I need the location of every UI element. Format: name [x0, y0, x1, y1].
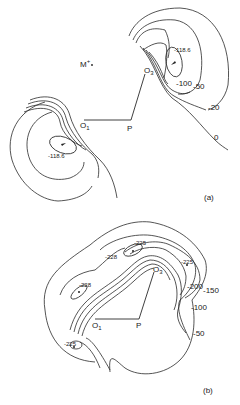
atom-p-label-b: P	[136, 321, 141, 330]
m-plus-dot	[91, 64, 93, 66]
label-min-left-upper-b: -228	[79, 282, 92, 288]
label-minus-100: -100	[176, 79, 193, 88]
contour-0-lower	[30, 97, 117, 198]
label-zero: 0	[214, 133, 219, 142]
contour-minus-20-upper	[129, 8, 229, 110]
contour-minus-100-lower	[24, 108, 82, 146]
contour-channel-5-b	[86, 338, 110, 370]
atom-o3-label-a: O3	[144, 66, 154, 76]
contour-outer-lower	[10, 102, 92, 201]
contour-minus-20-lower	[28, 101, 99, 178]
min-dot-left	[78, 291, 80, 293]
contour-channel-6-b	[80, 342, 100, 368]
panel-a-label: (a)	[204, 193, 214, 202]
minimum-arrow-lower	[61, 143, 66, 146]
atom-o1-label-a: O1	[80, 121, 90, 131]
bond-p-o3	[131, 74, 145, 120]
minimum-arrow-upper	[171, 61, 176, 65]
label-min-lower: -118.6	[48, 153, 65, 159]
contour-diagram: M+ O1 P O3 -118.6 -100 -50 -20 0 -118.6 …	[0, 0, 240, 405]
lower-left-contours	[10, 97, 117, 201]
atom-o3-label-b: O3	[153, 265, 163, 275]
label-min-top-b-b: -228	[105, 254, 118, 260]
label-minus-200-b: -200	[187, 282, 204, 291]
bond-p-o3-b	[139, 272, 154, 319]
min-dot-top	[132, 250, 134, 252]
label-minus-50: -50	[193, 82, 205, 91]
atom-p-label-a: P	[127, 124, 132, 133]
contour-minus-50-b-left	[45, 310, 95, 362]
panel-a: M+ O1 P O3 -118.6 -100 -50 -20 0 -118.6 …	[10, 8, 228, 202]
atom-m-label: M+	[80, 58, 91, 69]
contour-minus-100-upper	[136, 29, 169, 58]
label-min-left-lower-b: -225	[64, 341, 77, 347]
label-minus-150-b: -150	[203, 286, 220, 295]
contour-minus-20-channel	[143, 48, 206, 110]
atom-o1-label-b: O1	[92, 321, 102, 331]
label-minus-100-b: -100	[191, 303, 208, 312]
label-min-right-b: -225	[181, 259, 194, 265]
contour-mid-lower	[27, 112, 84, 179]
panel-b: O1 P O3 -225 -228 -225 -228 -225 -200 -1…	[44, 222, 219, 395]
label-min-top-a-b: -225	[134, 240, 147, 246]
label-minus-50-b: -50	[193, 329, 205, 338]
label-min-upper: -118.6	[174, 47, 191, 53]
contour-minus-50-lower	[26, 105, 86, 150]
label-minus-20: -20	[208, 103, 220, 112]
contour-channel-1-b	[70, 256, 186, 333]
panel-b-label: (b)	[203, 386, 213, 395]
contour-minus-100-channel	[149, 52, 168, 84]
